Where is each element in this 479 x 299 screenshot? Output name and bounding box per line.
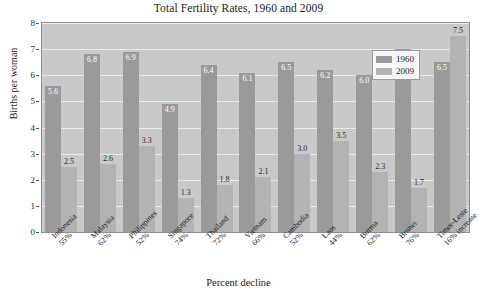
bar-1960-burma: 6.0 xyxy=(356,75,372,232)
bar-value-label: 4.9 xyxy=(165,105,175,114)
y-axis: 012345678 xyxy=(0,22,39,233)
bar-group: 6.53.0 xyxy=(278,23,310,232)
bar-value-label: 6.4 xyxy=(204,66,214,75)
y-axis-tickmark xyxy=(36,154,39,155)
bar-group: 6.41.8 xyxy=(201,23,233,232)
bar-1960-cambodia: 6.5 xyxy=(278,62,294,232)
legend-swatch-1960 xyxy=(376,56,392,63)
bar-1960-timor-leste: 6.5 xyxy=(434,62,450,232)
bar-value-label: 6.9 xyxy=(126,53,136,62)
bar-value-label: 3.0 xyxy=(297,144,307,153)
bar-group: 6.93.3 xyxy=(123,23,155,232)
bar-value-label: 2.6 xyxy=(103,154,113,163)
bar-value-label: 1.3 xyxy=(181,188,191,197)
bar-1960-laos: 6.2 xyxy=(317,70,333,232)
y-axis-tickmark xyxy=(36,75,39,76)
y-axis-tick-1: 1 xyxy=(31,201,36,211)
bar-group: 6.23.5 xyxy=(317,23,349,232)
bar-value-label: 6.0 xyxy=(359,76,369,85)
chart-legend: 19602009 xyxy=(372,50,420,80)
bar-value-label: 2.1 xyxy=(258,167,268,176)
bar-group: 6.82.6 xyxy=(84,23,116,232)
bar-group: 4.91.3 xyxy=(162,23,194,232)
legend-label: 2009 xyxy=(396,66,414,76)
bar-value-label: 6.5 xyxy=(437,63,447,72)
y-axis-label: Births per woman xyxy=(8,9,19,159)
x-axis-label: Percent decline xyxy=(0,277,477,288)
y-axis-tickmark xyxy=(36,128,39,129)
bar-2009-timor-leste: 7.5 xyxy=(450,36,466,232)
y-axis-tick-6: 6 xyxy=(31,70,36,80)
bar-value-label: 6.5 xyxy=(281,63,291,72)
y-axis-tickmark xyxy=(36,49,39,50)
y-axis-tickmark xyxy=(36,23,39,24)
y-axis-tick-8: 8 xyxy=(31,18,36,28)
y-axis-tick-2: 2 xyxy=(31,175,36,185)
legend-item-2009: 2009 xyxy=(376,65,414,77)
bar-1960-malaysia: 6.8 xyxy=(84,54,100,232)
bar-value-label: 5.6 xyxy=(48,87,58,96)
y-axis-tick-0: 0 xyxy=(31,227,36,237)
y-axis-tick-7: 7 xyxy=(31,44,36,54)
bar-value-label: 2.3 xyxy=(375,162,385,171)
bar-1960-vietnam: 6.1 xyxy=(239,73,255,232)
y-axis-tick-4: 4 xyxy=(31,123,36,133)
bar-value-label: 7.5 xyxy=(453,26,463,35)
y-axis-tick-5: 5 xyxy=(31,96,36,106)
bar-group: 6.57.5 xyxy=(434,23,466,232)
bar-value-label: 6.8 xyxy=(87,55,97,64)
chart-title: Total Fertility Rates, 1960 and 2009 xyxy=(0,2,477,14)
y-axis-tickmark xyxy=(36,101,39,102)
bar-value-label: 2.5 xyxy=(64,157,74,166)
legend-swatch-2009 xyxy=(376,68,392,75)
bar-value-label: 1.7 xyxy=(414,178,424,187)
bar-value-label: 6.2 xyxy=(320,71,330,80)
bar-1960-philippines: 6.9 xyxy=(123,52,139,232)
legend-label: 1960 xyxy=(396,54,414,64)
legend-item-1960: 1960 xyxy=(376,53,414,65)
y-axis-tickmark xyxy=(36,180,39,181)
y-axis-tickmark xyxy=(36,206,39,207)
bar-1960-singapore: 4.9 xyxy=(162,104,178,232)
bar-group: 5.62.5 xyxy=(45,23,77,232)
y-axis-tickmark xyxy=(36,232,39,233)
bar-value-label: 1.8 xyxy=(220,175,230,184)
bar-value-label: 6.1 xyxy=(242,74,252,83)
bar-group: 6.12.1 xyxy=(239,23,271,232)
plot-area: 5.62.56.82.66.93.34.91.36.41.86.12.16.53… xyxy=(41,22,470,233)
bar-2009-laos: 3.5 xyxy=(333,141,349,232)
bar-1960-indonesia: 5.6 xyxy=(45,86,61,232)
bar-value-label: 3.3 xyxy=(142,136,152,145)
bar-1960-thailand: 6.4 xyxy=(201,65,217,232)
y-axis-tick-3: 3 xyxy=(31,149,36,159)
bar-value-label: 3.5 xyxy=(336,131,346,140)
